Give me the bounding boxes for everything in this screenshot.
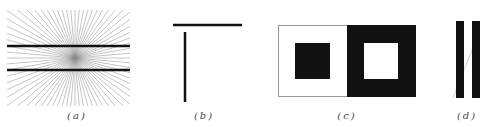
caption-d: (d) [457, 110, 477, 121]
poggendorff-illusion-figure [420, 0, 487, 110]
caption-a: (a) [67, 110, 87, 121]
vertical-horizontal-illusion-figure [160, 0, 260, 110]
hering-illusion-figure [0, 0, 135, 110]
black-inner-square [295, 43, 330, 79]
panel-c: (c) [270, 0, 420, 127]
irradiation-illusion-figure [270, 0, 420, 110]
caption-c: (c) [337, 110, 356, 121]
panel-b: (b) [160, 0, 260, 127]
panel-a: (a) [0, 0, 135, 127]
right-vertical-bar [472, 21, 480, 98]
caption-b: (b) [194, 110, 214, 121]
left-vertical-bar [456, 21, 464, 98]
panel-d: (d) [420, 0, 487, 127]
white-inner-square [364, 43, 398, 79]
